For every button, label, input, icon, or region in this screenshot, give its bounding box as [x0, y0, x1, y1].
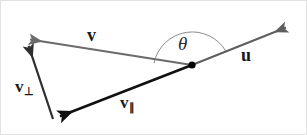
parallel-symbol: ∥ — [129, 102, 136, 113]
origin-dot — [188, 61, 195, 68]
angle-arc-theta — [154, 32, 226, 63]
vector-diagram-figure: v u v⊥ v∥ θ — [0, 0, 307, 135]
vector-v-parallel-label: v∥ — [120, 94, 135, 114]
vector-u-label: u — [241, 46, 251, 64]
vector-v-perp-label: v⊥ — [15, 78, 34, 98]
angle-theta-label: θ — [178, 34, 187, 53]
vector-v-arrow — [30, 39, 192, 65]
vector-v-perp-label-base: v — [15, 77, 24, 96]
vector-v-parallel-label-base: v — [120, 93, 129, 112]
perpendicular-symbol: ⊥ — [24, 86, 35, 97]
vector-v-label: v — [87, 26, 96, 44]
vector-canvas — [1, 1, 307, 135]
vector-u-arrow — [192, 28, 286, 66]
